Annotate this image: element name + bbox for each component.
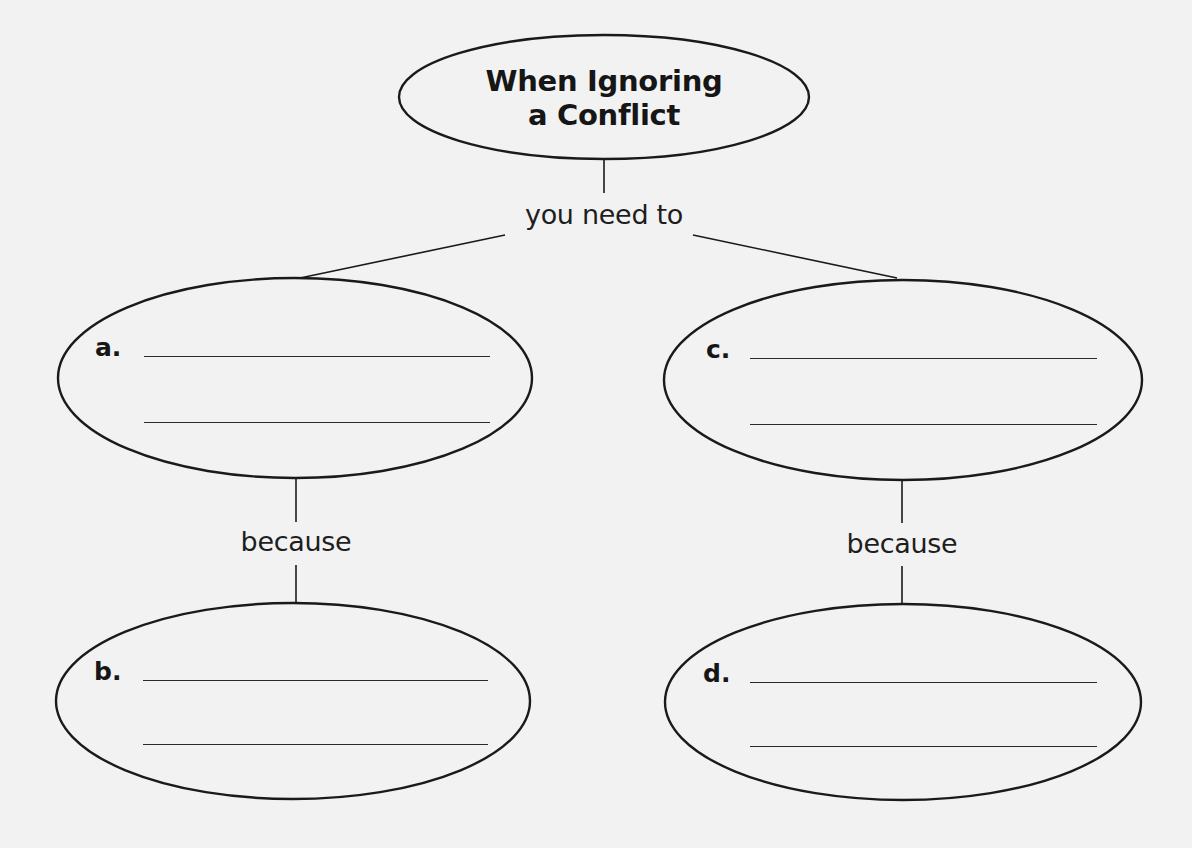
- concept-map: When Ignoring a Conflict you need to bec…: [0, 0, 1192, 848]
- node-d-answer-line-2[interactable]: [750, 746, 1097, 747]
- node-d-label: d.: [703, 660, 730, 688]
- node-d-ellipse: [665, 604, 1141, 800]
- connector-label-because-right: because: [802, 528, 1002, 560]
- title-line-1: When Ignoring: [486, 64, 723, 98]
- node-b-label: b.: [94, 658, 121, 686]
- branch-line-left: [300, 235, 505, 278]
- node-b-ellipse: [56, 603, 530, 799]
- title-line-2: a Conflict: [528, 98, 680, 132]
- node-c-answer-line-1[interactable]: [750, 358, 1097, 359]
- node-a-ellipse: [58, 278, 532, 478]
- title-node: When Ignoring a Conflict: [404, 38, 804, 158]
- node-d-answer-line-1[interactable]: [750, 682, 1097, 683]
- node-b-answer-line-2[interactable]: [143, 744, 488, 745]
- node-c-label: c.: [706, 336, 730, 364]
- node-b-answer-line-1[interactable]: [143, 680, 488, 681]
- node-c-ellipse: [664, 280, 1142, 480]
- node-a-answer-line-1[interactable]: [144, 356, 490, 357]
- node-a-answer-line-2[interactable]: [144, 422, 490, 423]
- connector-label-because-left: because: [196, 526, 396, 558]
- node-a-label: a.: [95, 334, 121, 362]
- branch-line-right: [693, 235, 897, 278]
- connector-label-you-need-to: you need to: [494, 199, 714, 231]
- node-c-answer-line-2[interactable]: [750, 424, 1097, 425]
